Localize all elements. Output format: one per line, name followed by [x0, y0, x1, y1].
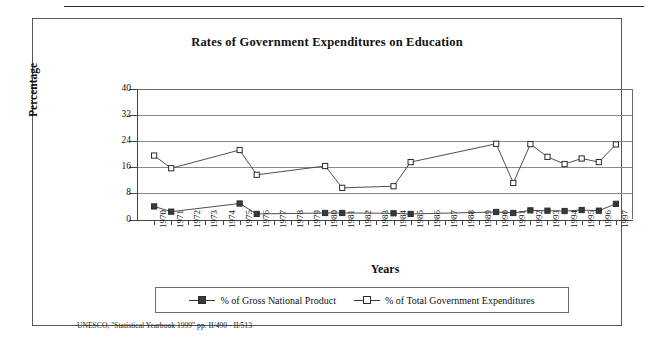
data-point-1985	[408, 159, 413, 164]
data-point-1976	[254, 172, 259, 177]
data-point-1975	[237, 147, 242, 152]
chart-legend: % of Gross National Product% of Total Go…	[155, 287, 569, 313]
data-point-1981	[340, 185, 345, 190]
data-point-1984	[391, 211, 396, 216]
data-point-1991	[511, 210, 516, 215]
data-point-1990	[494, 141, 499, 146]
legend-marker-open-square	[354, 295, 380, 305]
data-point-1970	[152, 204, 157, 209]
series-plot-layer	[33, 19, 621, 325]
data-point-1992	[528, 142, 533, 147]
data-point-1976	[254, 211, 259, 216]
figure-page: Rates of Government Expenditures on Educ…	[0, 0, 658, 352]
legend-label: % of Gross National Product	[220, 295, 336, 306]
data-point-1971	[169, 209, 174, 214]
data-point-1970	[152, 153, 157, 158]
data-point-1995	[579, 207, 584, 212]
legend-swatch	[198, 296, 206, 304]
data-point-1995	[579, 156, 584, 161]
data-point-1980	[323, 163, 328, 168]
data-point-1975	[237, 201, 242, 206]
data-point-1992	[528, 208, 533, 213]
series-line-1	[154, 144, 616, 188]
legend-swatch	[363, 296, 371, 304]
data-point-1996	[596, 159, 601, 164]
data-point-1994	[562, 161, 567, 166]
legend-item-1[interactable]: % of Total Government Expenditures	[354, 295, 535, 306]
data-point-1997	[613, 201, 618, 206]
source-note: UNESCO, "Statistical Yearbook 1999" pp. …	[77, 321, 252, 330]
data-point-1980	[323, 210, 328, 215]
legend-label: % of Total Government Expenditures	[385, 295, 535, 306]
data-point-1985	[408, 211, 413, 216]
figure-container: Rates of Government Expenditures on Educ…	[32, 18, 622, 326]
page-top-rule	[64, 6, 644, 7]
data-point-1984	[391, 184, 396, 189]
x-axis-title: Years	[137, 262, 633, 277]
legend-marker-filled-square	[189, 295, 215, 305]
data-point-1971	[169, 166, 174, 171]
data-point-1996	[596, 208, 601, 213]
data-point-1994	[562, 208, 567, 213]
data-point-1997	[613, 142, 618, 147]
data-point-1993	[545, 154, 550, 159]
legend-item-0[interactable]: % of Gross National Product	[189, 295, 336, 306]
data-point-1993	[545, 208, 550, 213]
data-point-1981	[340, 210, 345, 215]
data-point-1991	[511, 180, 516, 185]
data-point-1990	[494, 209, 499, 214]
x-tick-label-1997: 1997	[620, 210, 630, 228]
